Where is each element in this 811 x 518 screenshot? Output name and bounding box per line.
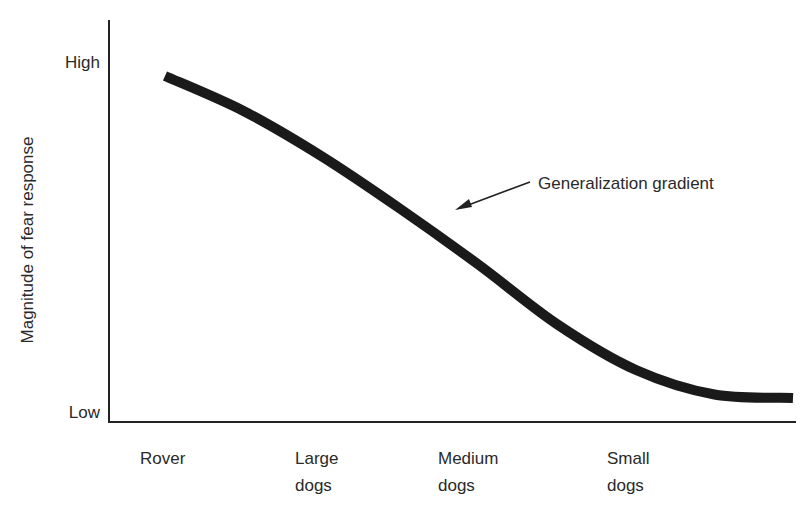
annotation-arrowhead-icon	[455, 199, 472, 210]
x-tick-label: dogs	[607, 476, 644, 495]
annotation-label: Generalization gradient	[538, 174, 714, 193]
y-tick-low: Low	[69, 403, 101, 422]
x-tick-label: Large	[295, 449, 338, 468]
x-tick-label: Small	[607, 449, 650, 468]
y-axis-label: Magnitude of fear response	[18, 137, 37, 344]
generalization-gradient-line	[165, 76, 793, 398]
chart: High Low Magnitude of fear response Rove…	[0, 0, 811, 518]
x-tick-label: dogs	[438, 476, 475, 495]
y-tick-high: High	[65, 53, 100, 72]
x-tick-label: dogs	[295, 476, 332, 495]
x-tick-label: Rover	[140, 449, 186, 468]
x-tick-label: Medium	[438, 449, 498, 468]
annotation-arrow-line	[463, 182, 530, 207]
